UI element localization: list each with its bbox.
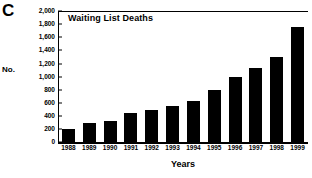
y-axis-tick-label: 2,000 <box>39 8 55 15</box>
bar <box>208 90 221 143</box>
bar-slot <box>104 11 117 142</box>
x-axis-tick-label: 1997 <box>249 145 263 152</box>
bar-slot <box>187 11 200 142</box>
bar <box>187 101 200 142</box>
x-axis-tick-label: 1989 <box>82 145 96 152</box>
x-axis-tick-label: 1993 <box>165 145 179 152</box>
x-axis-tick-label: 1999 <box>290 145 304 152</box>
bar-slot <box>249 11 262 142</box>
x-axis-tick-label: 1995 <box>207 145 221 152</box>
bar <box>124 113 137 143</box>
x-axis-tick-label: 1988 <box>61 145 75 152</box>
x-axis-tick-label: 1994 <box>186 145 200 152</box>
y-axis-tick-label: 0 <box>51 139 55 146</box>
y-axis-tick-label: 1,400 <box>39 47 55 54</box>
bar-slot <box>124 11 137 142</box>
y-axis-tick-label: 200 <box>44 126 55 133</box>
bar-slot <box>83 11 96 142</box>
y-axis-tick-mark <box>58 102 62 103</box>
bar <box>270 57 283 142</box>
bar-slot <box>145 11 158 142</box>
y-axis-tick-labels: 02004006008001,0001,2001,4001,6001,8002,… <box>0 0 55 178</box>
bar <box>145 110 158 143</box>
bar-slot <box>270 11 283 142</box>
y-axis-tick-mark <box>58 37 62 38</box>
y-axis-tick-label: 400 <box>44 113 55 120</box>
y-axis-tick-label: 1,800 <box>39 21 55 28</box>
y-axis-tick-label: 1,200 <box>39 60 55 67</box>
bar-slot <box>166 11 179 142</box>
y-axis-tick-label: 800 <box>44 87 55 94</box>
y-axis-tick-label: 600 <box>44 100 55 107</box>
y-axis-tick-mark <box>58 76 62 77</box>
bar <box>83 123 96 143</box>
y-axis-tick-mark <box>58 116 62 117</box>
bar-slot <box>291 11 304 142</box>
x-axis-tick-label: 1996 <box>228 145 242 152</box>
y-axis-tick-mark <box>58 63 62 64</box>
bar <box>291 27 304 142</box>
y-axis-tick-mark <box>58 24 62 25</box>
y-axis-tick-label: 1,000 <box>39 73 55 80</box>
y-axis-tick-mark <box>58 142 62 143</box>
x-axis-tick-label: 1990 <box>103 145 117 152</box>
bar <box>104 121 117 142</box>
bar-slot <box>208 11 221 142</box>
x-axis-title: Years <box>171 160 195 169</box>
bar-slot <box>62 11 75 142</box>
bar-slot <box>229 11 242 142</box>
bar <box>229 77 242 143</box>
y-axis-tick-mark <box>58 129 62 130</box>
y-axis-tick-mark <box>58 50 62 51</box>
x-axis-tick-label: 1998 <box>270 145 284 152</box>
x-axis-tick-label: 1992 <box>145 145 159 152</box>
bar <box>166 106 179 142</box>
x-axis-tick-label: 1991 <box>124 145 138 152</box>
y-axis-tick-label: 1,600 <box>39 34 55 41</box>
bar-series <box>58 11 308 142</box>
figure-panel-c: C No. 02004006008001,0001,2001,4001,6001… <box>0 0 312 178</box>
bar <box>249 68 262 142</box>
bar <box>62 129 75 142</box>
y-axis-tick-mark <box>58 89 62 90</box>
y-axis-tick-mark <box>58 11 62 12</box>
